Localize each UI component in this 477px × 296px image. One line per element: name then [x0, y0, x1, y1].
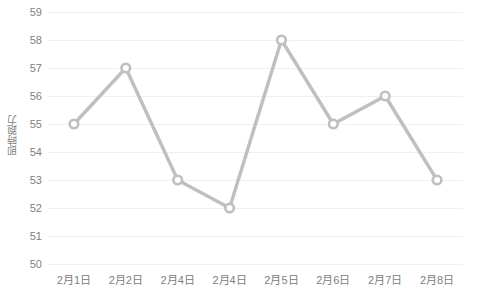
data-point: [433, 176, 442, 185]
data-point: [173, 176, 182, 185]
line-chart: 即時跑力 59585756555453525150 2月1日2月2日2月4日2月…: [0, 0, 477, 296]
plot-area: [0, 0, 477, 296]
gridlines: [48, 12, 463, 264]
data-point: [277, 36, 286, 45]
data-point: [381, 92, 390, 101]
data-point: [70, 120, 79, 129]
data-point: [122, 64, 131, 73]
data-point: [225, 204, 234, 213]
data-point: [329, 120, 338, 129]
